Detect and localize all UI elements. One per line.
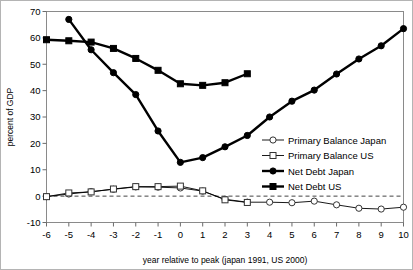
legend-marker-2: [270, 168, 276, 174]
legend-marker-0: [270, 137, 276, 143]
y-axis-title: percent of GDP: [5, 87, 15, 146]
series-0-marker: [289, 200, 295, 206]
x-axis-tick-label: -2: [132, 229, 140, 240]
x-axis-tick-label: 2: [222, 229, 227, 240]
series-3-marker: [155, 67, 161, 73]
series-1-marker: [110, 186, 116, 192]
series-2-marker: [155, 128, 161, 134]
series-0-marker: [267, 199, 273, 205]
legend-label-2: Net Debt Japan: [288, 166, 354, 177]
series-2-marker: [66, 16, 72, 22]
series-2-marker: [400, 26, 406, 32]
x-axis-tick-label: 5: [289, 229, 294, 240]
series-2-marker: [133, 91, 139, 97]
series-0-marker: [378, 206, 384, 212]
x-axis-tick-label: 0: [178, 229, 183, 240]
series-2-marker: [333, 71, 339, 77]
series-2-marker: [222, 144, 228, 150]
y-axis-tick-label: 40: [30, 85, 41, 96]
series-3-marker: [66, 38, 72, 44]
series-1-marker: [66, 190, 72, 196]
x-axis-title: year relative to peak (japan 1991, US 20…: [143, 255, 308, 265]
series-2-marker: [267, 114, 273, 120]
legend-label-3: Net Debt US: [288, 181, 341, 192]
series-3-marker: [110, 45, 116, 51]
x-axis-tick-label: -4: [87, 229, 95, 240]
series-2-marker: [311, 87, 317, 93]
series-1-marker: [155, 184, 161, 190]
series-0-marker: [356, 205, 362, 211]
y-axis-tick-label: 60: [30, 32, 41, 43]
series-2-marker: [88, 47, 94, 53]
x-axis-tick-label: 1: [200, 229, 205, 240]
x-axis-tick-label: 9: [379, 229, 384, 240]
x-axis-tick-label: -1: [154, 229, 162, 240]
series-1-marker: [244, 199, 250, 205]
series-3-marker: [177, 81, 183, 87]
series-2-marker: [177, 159, 183, 165]
y-axis-tick-label: 50: [30, 59, 41, 70]
debt-primary-balance-line-chart: -10010203040506070-6-5-4-3-2-10123456789…: [0, 0, 413, 270]
series-1-marker: [222, 197, 228, 203]
series-2-marker: [378, 43, 384, 49]
x-axis-tick-label: 6: [312, 229, 317, 240]
x-axis-tick-label: 3: [245, 229, 250, 240]
series-2-marker: [200, 155, 206, 161]
y-axis-tick-label: 10: [30, 164, 41, 175]
x-axis-tick-label: 10: [398, 229, 409, 240]
series-3-marker: [133, 55, 139, 61]
series-3-marker: [44, 37, 50, 43]
series-2-marker: [356, 56, 362, 62]
series-2-marker: [244, 132, 250, 138]
y-axis-tick-label: 20: [30, 138, 41, 149]
x-axis-tick-label: -3: [109, 229, 117, 240]
series-1-marker: [177, 183, 183, 189]
legend-marker-3: [270, 184, 276, 190]
x-axis-tick-label: 4: [267, 229, 272, 240]
series-3-marker: [222, 80, 228, 86]
x-axis-tick-label: 7: [334, 229, 339, 240]
y-axis-tick-label: 70: [30, 6, 41, 17]
y-axis-tick-label: 30: [30, 111, 41, 122]
series-2-marker: [110, 70, 116, 76]
series-0-marker: [333, 202, 339, 208]
legend-label-1: Primary Balance US: [288, 150, 374, 161]
series-2-marker: [289, 98, 295, 104]
series-3-marker: [88, 39, 94, 45]
x-axis-tick-label: -5: [65, 229, 73, 240]
series-3-marker: [244, 71, 250, 77]
series-0-marker: [400, 204, 406, 210]
y-axis-tick-label: 0: [35, 191, 40, 202]
y-axis-tick-label: -10: [27, 217, 41, 228]
chart-container: -10010203040506070-6-5-4-3-2-10123456789…: [0, 0, 413, 270]
series-0-marker: [311, 198, 317, 204]
legend-marker-1: [270, 153, 276, 159]
series-3-marker: [200, 82, 206, 88]
x-axis-tick-label: 8: [356, 229, 361, 240]
legend-label-0: Primary Balance Japan: [288, 135, 386, 146]
series-1-marker: [88, 189, 94, 195]
series-1-marker: [133, 184, 139, 190]
x-axis-tick-label: -6: [42, 229, 50, 240]
series-1-marker: [44, 194, 50, 200]
series-1-marker: [200, 188, 206, 194]
